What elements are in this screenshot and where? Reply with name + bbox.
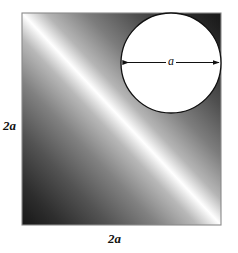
dimension-label-bottom: 2a bbox=[108, 232, 121, 245]
dimension-label-diameter: a bbox=[166, 55, 176, 67]
dimension-label-left: 2a bbox=[3, 119, 16, 132]
figure-canvas bbox=[0, 0, 238, 253]
